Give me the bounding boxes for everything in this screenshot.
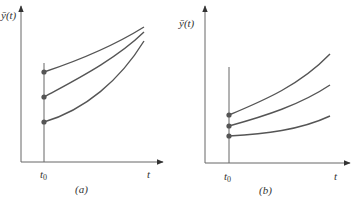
t0-label-a: t0 — [40, 168, 47, 182]
y-axis-label-b: ȳ(t) — [178, 17, 195, 30]
panel-a: ȳ(t) t0 t (a) — [0, 6, 163, 196]
initial-point-b-1 — [226, 112, 231, 117]
y-axis-label-a: ȳ(t) — [0, 9, 17, 22]
figure-canvas: ȳ(t) t0 t (a) ȳ(t) t0 t (b) — [0, 0, 352, 199]
initial-point-a-1 — [41, 69, 46, 74]
initial-point-b-3 — [226, 133, 231, 138]
x-axis-label-a: t — [147, 168, 151, 180]
initial-point-a-2 — [41, 94, 46, 99]
trajectory-a-1 — [44, 27, 144, 72]
t0-label-b: t0 — [224, 170, 231, 184]
initial-point-a-3 — [41, 119, 46, 124]
trajectory-b-1 — [229, 54, 330, 115]
panel-b: ȳ(t) t0 t (b) — [178, 6, 350, 197]
caption-b: (b) — [259, 184, 272, 197]
caption-a: (a) — [75, 183, 88, 196]
trajectory-b-3 — [229, 116, 330, 136]
x-axis-label-b: t — [334, 170, 338, 182]
initial-point-b-2 — [226, 123, 231, 128]
trajectory-a-2 — [44, 32, 144, 97]
